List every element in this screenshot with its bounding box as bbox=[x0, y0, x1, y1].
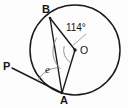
angle-label-unknown: e bbox=[45, 64, 50, 75]
point-label-p: P bbox=[3, 61, 10, 72]
segment-pa bbox=[12, 68, 62, 93]
center-label-o: O bbox=[80, 45, 88, 56]
segment-ba bbox=[50, 18, 62, 93]
angle-arc-boa-inner bbox=[64, 46, 71, 62]
vertex-dot-b bbox=[49, 17, 52, 20]
angle-label-central: 114° bbox=[66, 23, 86, 33]
point-label-b: B bbox=[42, 4, 50, 15]
vertex-dot-o bbox=[73, 48, 76, 51]
geometry-diagram: B A P O 114° e bbox=[0, 0, 128, 108]
geometry-canvas bbox=[0, 0, 128, 108]
point-label-a: A bbox=[60, 95, 68, 106]
segment-ao bbox=[62, 50, 75, 93]
angle-arc-boa bbox=[53, 38, 61, 69]
